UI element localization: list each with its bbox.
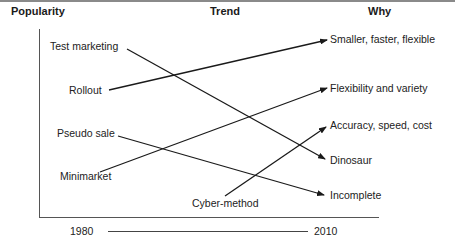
timeline-line bbox=[108, 231, 308, 232]
arrow-cyber-method-to-accuracy bbox=[225, 127, 326, 196]
connection-arrows bbox=[0, 0, 455, 242]
arrow-rollout-to-smaller bbox=[109, 40, 327, 90]
timeline-start-year: 1980 bbox=[70, 225, 93, 237]
arrow-test-marketing-to-dinosaur bbox=[127, 49, 325, 159]
arrow-minimarket-to-flexibility bbox=[100, 88, 327, 172]
timeline-end-year: 2010 bbox=[314, 225, 337, 237]
arrow-pseudo-sale-to-incomplete bbox=[118, 136, 324, 195]
